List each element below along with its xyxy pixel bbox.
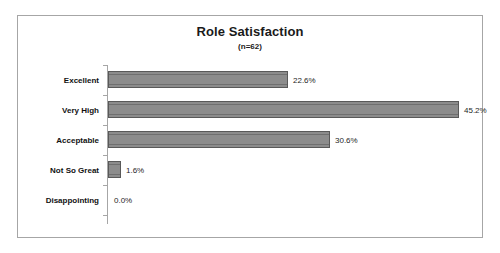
bar-shadow [109, 144, 329, 145]
bar-acceptable[interactable] [108, 131, 330, 148]
bar-row: Excellent 22.6% [18, 66, 482, 96]
bar-value-not-so-great: 1.6% [126, 165, 144, 176]
bar-shadow [109, 84, 287, 85]
bar-row: Not So Great 1.6% [18, 156, 482, 186]
bar-shadow [109, 174, 120, 175]
bar-row: Acceptable 30.6% [18, 126, 482, 156]
category-label-acceptable: Acceptable [18, 135, 99, 146]
category-label-excellent: Excellent [18, 75, 99, 86]
bar-very-high[interactable] [108, 101, 459, 118]
bar-highlight [109, 104, 458, 105]
category-label-very-high: Very High [18, 105, 99, 116]
bar-row: Disappointing 0.0% [18, 186, 482, 216]
chart-title-block: Role Satisfaction (n=62) [18, 24, 482, 52]
bar-value-very-high: 45.2% [464, 105, 487, 116]
chart-frame: Role Satisfaction (n=62) Excellent 22.6%… [17, 15, 483, 238]
bar-not-so-great[interactable] [108, 161, 121, 178]
bar-highlight [109, 134, 329, 135]
plot-area: Excellent 22.6% Very High 45.2% Acceptab… [18, 64, 482, 234]
chart-subtitle: (n=62) [18, 41, 482, 52]
bar-value-excellent: 22.6% [293, 75, 316, 86]
page-title: Role Satisfaction [18, 24, 482, 40]
bar-highlight [109, 164, 120, 165]
bar-highlight [109, 74, 287, 75]
bar-shadow [109, 114, 458, 115]
category-label-disappointing: Disappointing [18, 195, 99, 206]
bar-excellent[interactable] [108, 71, 288, 88]
category-label-not-so-great: Not So Great [18, 165, 99, 176]
bar-value-acceptable: 30.6% [335, 135, 358, 146]
bar-row: Very High 45.2% [18, 96, 482, 126]
bar-value-disappointing: 0.0% [114, 195, 132, 206]
